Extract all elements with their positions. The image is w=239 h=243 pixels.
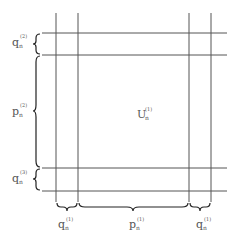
label-base: q [12,172,19,185]
grid-diagram: U n (1) q n (2) p n (2) q n (3) q n (1) … [0,0,239,243]
left-brace-q-top [33,34,40,54]
label-sub: n [19,42,23,49]
center-label-sub: n [145,114,149,121]
label-base: q [196,218,203,231]
label-sub: n [203,224,207,231]
label-base: p [129,218,136,231]
label-base: q [12,36,19,49]
bottom-label-q-left: q n (1) [58,216,73,231]
bottom-label-p-mid: p n (1) [129,216,144,231]
label-sup: (1) [137,216,144,222]
label-sub: n [19,111,23,118]
center-label-sup: (1) [145,106,152,112]
bottom-brace-q-right [190,203,210,211]
label-sup: (1) [204,216,211,222]
left-label-q-bottom: q n (3) [12,169,27,185]
label-base: q [58,218,65,231]
left-label-q-top: q n (2) [12,33,27,49]
label-sup: (3) [20,169,27,175]
label-base: p [12,105,19,118]
left-brace-q-bottom [33,169,40,190]
bottom-brace-p-mid [79,203,188,211]
label-sub: n [19,178,23,185]
label-sup: (2) [20,102,27,108]
bottom-brace-q-left [57,203,77,211]
label-sub: n [65,224,69,231]
bottom-label-q-right: q n (1) [196,216,211,231]
label-sup: (2) [20,33,27,39]
center-label: U n (1) [137,106,152,121]
label-sup: (1) [66,216,73,222]
label-sub: n [136,224,140,231]
left-label-p-mid: p n (2) [12,102,27,118]
left-brace-p-mid [33,56,40,167]
